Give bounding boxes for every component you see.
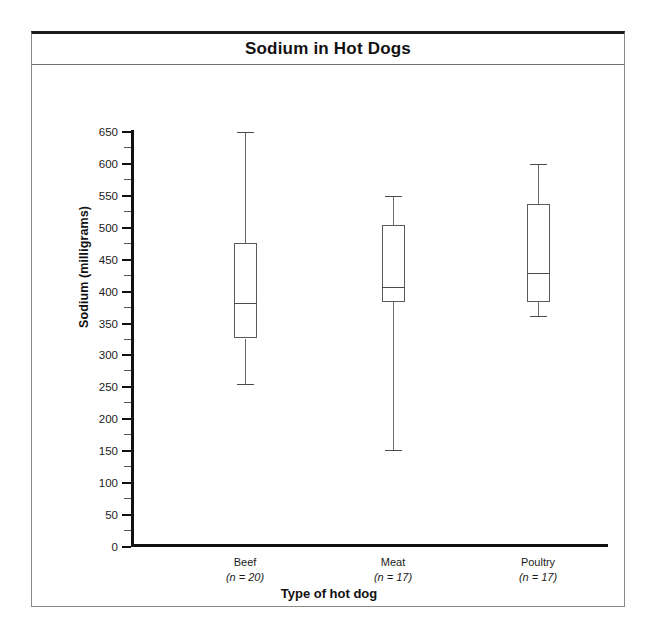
x-axis-title: Type of hot dog <box>32 586 626 601</box>
y-tick-minor <box>124 339 131 340</box>
iqr-box <box>382 225 405 302</box>
y-tick-label: 250 <box>76 381 118 393</box>
y-tick-label: 100 <box>76 477 118 489</box>
y-tick-label: 200 <box>76 413 118 425</box>
upper-whisker-cap <box>385 196 402 197</box>
y-tick-minor <box>124 147 131 148</box>
y-axis-title: Sodium (milligrams) <box>77 157 91 377</box>
y-tick-minor <box>124 370 131 371</box>
y-tick-major <box>122 514 131 516</box>
x-category-label: Beef(n = 20) <box>185 555 305 585</box>
median-line <box>382 287 405 288</box>
upper-whisker-line <box>538 164 539 204</box>
y-tick-minor <box>124 307 131 308</box>
y-tick-major <box>122 418 131 420</box>
lower-whisker-line <box>393 302 394 450</box>
iqr-box <box>234 243 257 339</box>
y-tick-major <box>122 546 131 548</box>
lower-whisker-line <box>538 302 539 316</box>
y-tick-minor <box>124 179 131 180</box>
y-tick-major <box>122 195 131 197</box>
y-tick-minor <box>124 243 131 244</box>
y-tick-major <box>122 227 131 229</box>
y-tick-label: 650 <box>76 126 118 138</box>
y-tick-major <box>122 291 131 293</box>
x-category-label: Poultry(n = 17) <box>478 555 598 585</box>
lower-whisker-cap <box>385 450 402 451</box>
median-line <box>234 303 257 304</box>
plot-area: 050100150200250300350400450500550600650 … <box>32 65 626 610</box>
x-axis-line <box>131 544 608 547</box>
page-title: Sodium in Hot Dogs <box>245 39 411 59</box>
y-tick-minor <box>124 530 131 531</box>
y-tick-minor <box>124 211 131 212</box>
y-tick-label: 150 <box>76 445 118 457</box>
y-tick-major <box>122 323 131 325</box>
y-tick-major <box>122 450 131 452</box>
upper-whisker-line <box>245 132 246 242</box>
y-tick-minor <box>124 402 131 403</box>
y-tick-label: 0 <box>76 541 118 553</box>
category-sample-size: (n = 17) <box>478 570 598 585</box>
y-tick-major <box>122 163 131 165</box>
category-name: Beef <box>185 555 305 570</box>
figure-frame: Sodium in Hot Dogs 050100150200250300350… <box>31 31 625 607</box>
category-sample-size: (n = 20) <box>185 570 305 585</box>
y-tick-major <box>122 259 131 261</box>
y-tick-label: 50 <box>76 509 118 521</box>
lower-whisker-line <box>245 339 246 385</box>
x-category-label: Meat(n = 17) <box>333 555 453 585</box>
title-bar: Sodium in Hot Dogs <box>32 34 624 65</box>
upper-whisker-line <box>393 196 394 225</box>
lower-whisker-cap <box>530 316 547 317</box>
median-line <box>527 273 550 274</box>
y-tick-major <box>122 482 131 484</box>
y-tick-minor <box>124 498 131 499</box>
category-name: Poultry <box>478 555 598 570</box>
y-tick-major <box>122 131 131 133</box>
lower-whisker-cap <box>237 384 254 385</box>
upper-whisker-cap <box>237 132 254 133</box>
y-tick-minor <box>124 434 131 435</box>
category-sample-size: (n = 17) <box>333 570 453 585</box>
iqr-box <box>527 204 550 302</box>
upper-whisker-cap <box>530 164 547 165</box>
y-tick-major <box>122 386 131 388</box>
y-tick-minor <box>124 466 131 467</box>
y-axis-line <box>131 130 134 547</box>
y-tick-minor <box>124 275 131 276</box>
y-tick-major <box>122 354 131 356</box>
category-name: Meat <box>333 555 453 570</box>
